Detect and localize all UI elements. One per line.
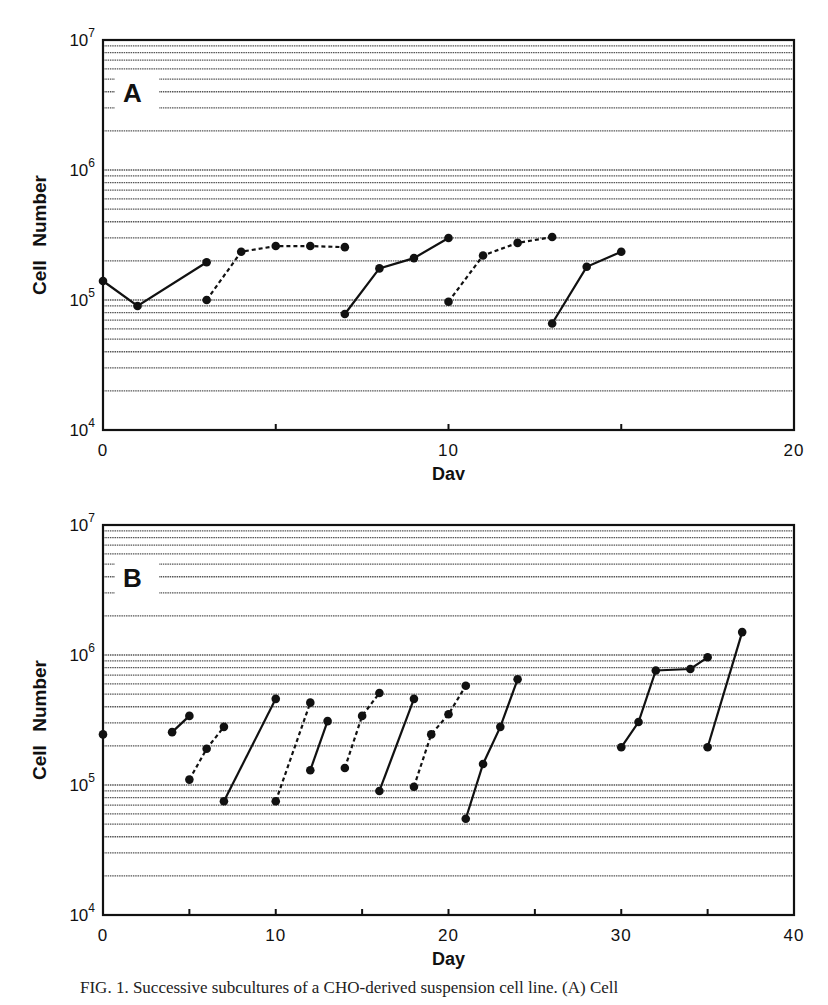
panel-b: B010203040Day107106105104Cell Number (0, 485, 828, 975)
y-tick-label: 105 (69, 286, 95, 310)
series-line (207, 246, 345, 300)
data-point (513, 675, 522, 684)
data-point (306, 766, 315, 775)
series-line (621, 657, 707, 747)
data-point (686, 665, 695, 674)
y-axis: 107106105104Cell Number (29, 26, 95, 440)
series-line (345, 693, 380, 768)
data-point (582, 263, 591, 272)
x-tick-label: 0 (98, 926, 108, 945)
y-tick-label: 106 (69, 156, 95, 180)
series-line (414, 686, 466, 787)
data-point (323, 717, 332, 726)
data-point (548, 233, 557, 242)
data-point (202, 296, 211, 305)
data-point (220, 723, 229, 732)
data-point (220, 797, 229, 806)
data-point (479, 760, 488, 769)
gridlines (103, 46, 794, 391)
x-axis-label: Day (432, 464, 465, 480)
x-tick-label: 20 (784, 441, 805, 460)
data-point (513, 239, 522, 248)
data-point (427, 730, 436, 739)
series-line (449, 237, 553, 302)
data-point (617, 247, 626, 256)
data-point (306, 698, 315, 707)
data-point (202, 744, 211, 753)
y-tick-label: 106 (69, 641, 95, 665)
series-line (345, 238, 449, 314)
series-line (379, 699, 414, 791)
data-point (703, 743, 712, 752)
x-tick-label: 30 (611, 926, 632, 945)
data-series (99, 233, 626, 328)
y-tick-label: 107 (69, 26, 95, 50)
data-point (444, 297, 453, 306)
series-line (276, 703, 311, 802)
data-point (375, 264, 384, 273)
data-point (479, 251, 488, 260)
data-point (271, 797, 280, 806)
data-point (634, 718, 643, 727)
data-point (410, 695, 419, 704)
data-point (410, 254, 419, 263)
data-point (444, 234, 453, 243)
y-tick-label: 104 (69, 416, 95, 440)
x-axis-label: Day (432, 949, 465, 969)
data-point (703, 653, 712, 662)
data-point (133, 302, 142, 311)
data-point (237, 247, 246, 256)
data-point (99, 277, 108, 286)
series-line (189, 727, 224, 780)
x-axis: 010203040Day (98, 909, 805, 969)
x-tick-label: 40 (784, 926, 805, 945)
panel-label: A (123, 78, 142, 108)
data-point (410, 782, 419, 791)
data-point (461, 814, 470, 823)
y-axis-label: Cell Number (29, 659, 50, 780)
data-point (341, 243, 350, 252)
panel-a: A01020Day107106105104Cell Number (0, 0, 828, 480)
data-point (185, 712, 194, 721)
gridlines (103, 531, 794, 876)
data-point (444, 710, 453, 719)
data-point (548, 319, 557, 328)
series-line (708, 632, 743, 747)
data-point (202, 258, 211, 267)
data-point (496, 723, 505, 732)
data-point (341, 310, 350, 319)
y-tick-label: 107 (69, 511, 95, 535)
x-tick-label: 0 (98, 441, 108, 460)
data-point (375, 787, 384, 796)
figure-caption: FIG. 1. Successive subcultures of a CHO-… (80, 978, 618, 998)
data-point (271, 242, 280, 251)
y-axis: 107106105104Cell Number (29, 511, 95, 925)
y-tick-label: 104 (69, 901, 95, 925)
data-point (306, 242, 315, 251)
data-point (617, 743, 626, 752)
series-line (224, 699, 276, 801)
plot-frame (103, 525, 794, 915)
data-point (168, 728, 177, 737)
data-point (358, 712, 367, 721)
x-tick-label: 10 (265, 926, 286, 945)
data-series (99, 628, 747, 823)
data-point (185, 775, 194, 784)
x-tick-label: 10 (438, 441, 459, 460)
x-tick-label: 20 (438, 926, 459, 945)
data-point (271, 695, 280, 704)
data-point (341, 764, 350, 773)
y-tick-label: 105 (69, 771, 95, 795)
y-axis-label: Cell Number (29, 174, 50, 295)
data-point (461, 681, 470, 690)
data-point (375, 689, 384, 698)
data-point (738, 628, 747, 637)
chart-a: A01020Day107106105104Cell Number (0, 0, 828, 480)
x-axis: 01020Day (98, 424, 805, 480)
chart-b: B010203040Day107106105104Cell Number (0, 485, 828, 975)
data-point (99, 730, 108, 739)
data-point (652, 666, 661, 675)
panel-label: B (123, 563, 142, 593)
